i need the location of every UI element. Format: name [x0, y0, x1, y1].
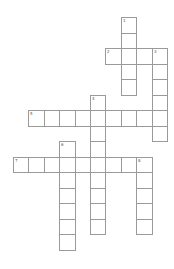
clue-number: 2	[107, 49, 110, 54]
clue-number: 1	[123, 18, 126, 23]
crossword-cell[interactable]	[59, 110, 76, 127]
crossword-cell[interactable]	[59, 219, 76, 235]
crossword-cell[interactable]	[44, 157, 60, 173]
crossword-cell[interactable]: 1	[121, 17, 137, 34]
clue-number: 4	[92, 96, 95, 101]
crossword-cell[interactable]	[152, 110, 168, 127]
crossword-cell[interactable]	[59, 188, 76, 204]
clue-number: 5	[30, 111, 33, 116]
crossword-cell[interactable]	[90, 203, 106, 220]
crossword-cell[interactable]	[152, 95, 168, 111]
crossword-cell[interactable]	[90, 219, 106, 235]
crossword-cell[interactable]: 2	[105, 48, 122, 65]
crossword-cell[interactable]	[59, 157, 76, 173]
crossword-cell[interactable]	[28, 157, 45, 173]
crossword-cell[interactable]: 8	[136, 157, 153, 173]
crossword-cell[interactable]	[44, 110, 60, 127]
crossword-cell[interactable]	[121, 64, 137, 80]
crossword-cell[interactable]	[121, 157, 137, 173]
crossword-cell[interactable]	[59, 234, 76, 251]
crossword-cell[interactable]	[136, 172, 153, 189]
crossword-cell[interactable]: 3	[152, 48, 168, 65]
crossword-cell[interactable]	[121, 48, 137, 65]
crossword-cell[interactable]	[75, 110, 91, 127]
crossword-cell[interactable]: 7	[13, 157, 29, 173]
crossword-cell[interactable]	[59, 172, 76, 189]
crossword-cell[interactable]	[121, 110, 137, 127]
clue-number: 7	[15, 158, 18, 163]
crossword-cell[interactable]: 6	[59, 141, 76, 158]
crossword-cell[interactable]	[121, 33, 137, 49]
clue-number: 3	[154, 49, 157, 54]
crossword-cell[interactable]	[90, 110, 106, 127]
crossword-cell[interactable]	[90, 188, 106, 204]
crossword-cell[interactable]	[121, 79, 137, 96]
crossword-grid: 12345678	[0, 0, 174, 269]
crossword-cell[interactable]	[90, 126, 106, 142]
crossword-cell[interactable]	[136, 219, 153, 235]
crossword-cell[interactable]: 5	[28, 110, 45, 127]
crossword-cell[interactable]	[136, 203, 153, 220]
crossword-cell[interactable]	[105, 110, 122, 127]
crossword-cell[interactable]	[136, 188, 153, 204]
clue-number: 6	[61, 142, 64, 147]
crossword-cell[interactable]	[152, 79, 168, 96]
crossword-cell[interactable]	[152, 126, 168, 142]
crossword-cell[interactable]	[136, 48, 153, 65]
crossword-cell[interactable]	[105, 157, 122, 173]
crossword-cell[interactable]	[90, 141, 106, 158]
crossword-cell[interactable]	[75, 157, 91, 173]
clue-number: 8	[138, 158, 141, 163]
crossword-cell[interactable]: 4	[90, 95, 106, 111]
crossword-cell[interactable]	[136, 110, 153, 127]
crossword-cell[interactable]	[90, 172, 106, 189]
crossword-cell[interactable]	[59, 203, 76, 220]
crossword-cell[interactable]	[90, 157, 106, 173]
crossword-cell[interactable]	[152, 64, 168, 80]
